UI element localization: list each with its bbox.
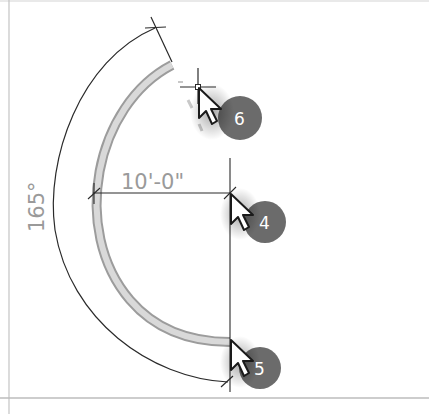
cursor-step-4: 4 (220, 188, 286, 243)
drawing-canvas: 165° 10'-0" 6 4 5 (0, 0, 429, 414)
angle-dimension[interactable]: 165° (25, 17, 233, 387)
step-badge-6: 6 (234, 109, 245, 129)
step-badge-5: 5 (254, 359, 265, 379)
step-badge-4: 4 (259, 213, 270, 233)
angle-dimension-label: 165° (25, 181, 49, 232)
cursor-step-5: 5 (220, 336, 281, 389)
radius-dimension[interactable]: 10'-0" (88, 170, 236, 204)
cursor-step-6: 6 (190, 84, 262, 140)
radius-dimension-label: 10'-0" (121, 170, 184, 194)
frame (0, 0, 429, 414)
